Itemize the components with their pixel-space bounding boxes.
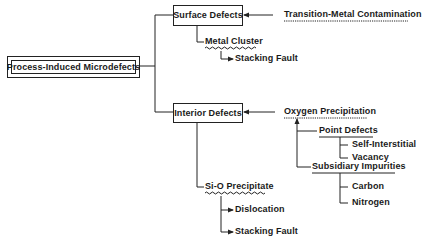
self-interstitial-label: Self-Interstitial — [352, 139, 416, 150]
si-o-precipitate-label: Si-O Precipitate — [205, 181, 274, 192]
subsidiary-impurities-label: Subsidiary Impurities — [312, 161, 406, 172]
point-defects-label: Point Defects — [319, 125, 378, 136]
root-node-inner: Process-Induced Microdefects — [11, 60, 136, 74]
transition-metal-contamination-label: Transition-Metal Contamination — [284, 9, 422, 20]
stacking-fault-surface-label: Stacking Fault — [235, 53, 298, 64]
dislocation-label: Dislocation — [235, 204, 285, 215]
root-node: Process-Induced Microdefects — [7, 56, 140, 78]
interior-defects-label: Interior Defects — [174, 108, 242, 119]
carbon-label: Carbon — [352, 181, 384, 192]
root-label: Process-Induced Microdefects — [7, 62, 140, 73]
surface-defects-node: Surface Defects — [173, 5, 243, 26]
nitrogen-label: Nitrogen — [352, 197, 390, 208]
oxygen-precipitation-label: Oxygen Precipitation — [284, 106, 376, 117]
metal-cluster-label: Metal Cluster — [205, 36, 263, 47]
interior-defects-node: Interior Defects — [173, 103, 243, 123]
stacking-fault-interior-label: Stacking Fault — [235, 226, 298, 237]
surface-defects-label: Surface Defects — [173, 10, 243, 21]
